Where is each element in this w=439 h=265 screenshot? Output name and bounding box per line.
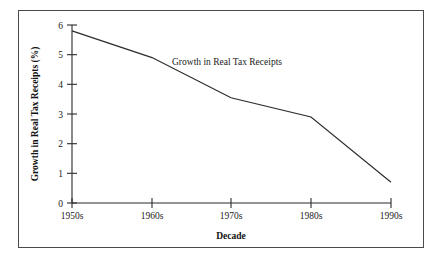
x-tick-label-1990s: 1990s [380, 211, 403, 221]
data-series-line [72, 31, 391, 182]
x-tick-label-1950s: 1950s [61, 211, 84, 221]
x-tick-label-1960s: 1960s [141, 211, 164, 221]
y-tick-label-2: 2 [58, 139, 63, 149]
series-annotation-label: Growth in Real Tax Receipts [172, 57, 282, 67]
x-tick-label-1980s: 1980s [300, 211, 323, 221]
x-tick-label-1970s: 1970s [220, 211, 243, 221]
figure-container: 6 5 4 3 2 1 0 1950s 1960s 1970s 1980s 19… [0, 0, 439, 265]
y-tick-label-4: 4 [58, 80, 63, 90]
x-axis-title: Decade [216, 231, 246, 241]
y-tick-label-3: 3 [58, 110, 63, 120]
y-tick-label-0: 0 [58, 199, 63, 209]
y-tick-label-1: 1 [58, 169, 63, 179]
line-chart: 6 5 4 3 2 1 0 1950s 1960s 1970s 1980s 19… [0, 0, 439, 265]
y-tick-label-5: 5 [58, 50, 63, 60]
y-axis-title: Growth in Real Tax Receipts (%) [30, 47, 41, 182]
y-tick-label-6: 6 [58, 21, 63, 31]
